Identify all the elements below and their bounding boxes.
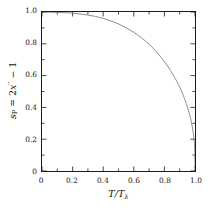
plot-svg [42,12,195,171]
x-axis-title-denominator-subscript: λ [124,193,128,201]
x-tick-label: 1.0 [190,177,202,184]
plot-area [41,11,196,172]
y-tick-label: 1.0 [0,7,37,14]
y-axis-title: sP = 2x′′ − 1 [7,25,20,155]
x-tick-label: 0.8 [159,177,171,184]
x-tick-label: 0 [39,177,44,184]
x-tick-label: 0.4 [97,177,109,184]
x-axis-title: T/Tλ [41,188,196,201]
y-tick-label: 0 [0,168,37,175]
minor-ticks-group [42,12,195,171]
y-axis-title-x: x [7,85,18,90]
y-axis-title-coefficient: 2 [7,90,18,96]
y-axis-title-minus-one: − 1 [7,62,18,79]
y-axis-title-x-superscript: ′′ [7,82,15,85]
y-axis-title-variable-subscript: P [11,110,19,115]
figure-container: 00.20.40.60.81.0 00.20.40.60.81.0 T/Tλ s… [0,0,215,210]
y-axis-title-variable: s [7,114,18,119]
x-tick-label: 0.2 [66,177,78,184]
data-series-line [42,12,195,168]
y-axis-title-equals: = [7,99,18,107]
major-ticks-group [42,12,195,171]
x-tick-label: 0.6 [128,177,140,184]
